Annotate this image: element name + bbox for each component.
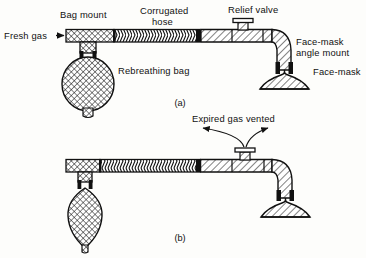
relief-valve-cap-a (233, 19, 253, 23)
label-angle-mount-line1: Face-mask (296, 36, 344, 47)
label-corrugated-hose-line1: Corrugated (140, 5, 188, 16)
caption-panel-a: (a) (174, 98, 185, 108)
label-rebreathing-bag: Rebreathing bag (118, 65, 190, 76)
expired-gas-arrow-right-icon (246, 128, 268, 147)
relief-valve-stem-b (240, 152, 250, 160)
rebreathing-bag-a (62, 57, 114, 111)
angle-mount-tab-right-a (289, 62, 294, 74)
caption-panel-b: (b) (174, 233, 185, 243)
rigid-tube-b (201, 160, 272, 173)
angle-mount-tab-right-b (290, 190, 295, 201)
label-relief-valve: Relief valve (228, 4, 278, 15)
face-mask-b (261, 198, 310, 217)
relief-valve-cap-b (235, 148, 255, 152)
face-mask-angle-mount-b (272, 160, 292, 199)
corrugated-hose-b (100, 160, 200, 173)
bag-mount-tab-right-b (89, 180, 93, 189)
rebreathing-bag-tail-b (82, 245, 88, 253)
bag-mount-body-b (66, 160, 100, 173)
angle-mount-tab-left-a (276, 62, 281, 74)
label-angle-mount-line2: angle mount (296, 47, 349, 58)
hose-connector-right-b (196, 160, 201, 173)
relief-valve-b (235, 148, 255, 160)
breathing-circuit-figure: Fresh gas Bag mount Rebreathing bag Corr… (0, 0, 366, 258)
label-expired-gas-vented: Expired gas vented (192, 113, 275, 124)
label-fresh-gas: Fresh gas (4, 30, 47, 41)
label-bag-mount: Bag mount (60, 9, 107, 20)
bag-mount-tab-left-b (78, 180, 82, 189)
label-corrugated-hose-line2: hose (152, 16, 173, 27)
hose-connector-left-b (99, 160, 101, 173)
panel-a: Fresh gas Bag mount Rebreathing bag Corr… (4, 4, 361, 118)
relief-valve-stem-a (238, 22, 248, 30)
angle-mount-tab-left-b (277, 190, 282, 201)
figure-canvas: Fresh gas Bag mount Rebreathing bag Corr… (0, 0, 366, 258)
relief-valve-a (233, 19, 253, 31)
rigid-tube-a (201, 30, 272, 43)
hose-connector-left-a (113, 30, 116, 43)
hose-connector-right-a (196, 30, 201, 43)
panel-b: Expired gas vented (66, 113, 310, 253)
bag-mount-b (66, 160, 100, 190)
corrugated-hose-a (114, 30, 200, 43)
label-face-mask: Face-mask (313, 66, 361, 77)
bag-mount-body (66, 30, 114, 43)
expired-gas-arrow-left-icon (203, 128, 244, 147)
rebreathing-bag-b (68, 188, 102, 248)
bag-mount-a (66, 30, 114, 61)
rebreathing-bag-tail-a (83, 108, 93, 118)
face-mask-angle-mount-a (272, 30, 291, 71)
face-mask-a (260, 70, 309, 89)
